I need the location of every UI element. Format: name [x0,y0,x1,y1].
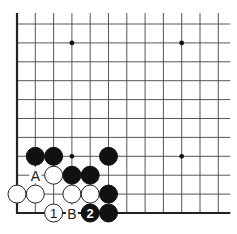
black-stone-icon [81,166,99,184]
black-stone-icon [45,147,63,165]
go-board-diagram: AB 12 [0,0,237,234]
black-stone: 2 [81,204,99,222]
white-stone [8,185,26,203]
black-stone-icon [100,147,118,165]
move-number: 1 [50,206,57,221]
star-point-icon [179,41,184,46]
star-point-icon [179,154,184,159]
black-stone [63,166,81,184]
move-number: 2 [87,206,94,221]
white-stone [26,185,44,203]
star-point-icon [70,41,75,46]
black-stone-icon [26,147,44,165]
black-stone [26,147,44,165]
black-stone-icon [100,204,118,222]
black-stone [100,185,118,203]
black-stone [81,166,99,184]
white-stone-icon [63,185,81,203]
stones: 12 [8,147,118,222]
star-point-icon [70,154,75,159]
white-stone [45,166,63,184]
point-label-a: A [31,168,41,184]
white-stone-icon [81,185,99,203]
black-stone-icon [100,185,118,203]
black-stone-icon [63,166,81,184]
white-stone [81,185,99,203]
white-stone: 1 [45,204,63,222]
black-stone [100,204,118,222]
black-stone [100,147,118,165]
white-stone-icon [8,185,26,203]
white-stone-icon [26,185,44,203]
white-stone [63,185,81,203]
point-label-b: B [67,206,76,222]
black-stone [45,147,63,165]
white-stone-icon [45,166,63,184]
